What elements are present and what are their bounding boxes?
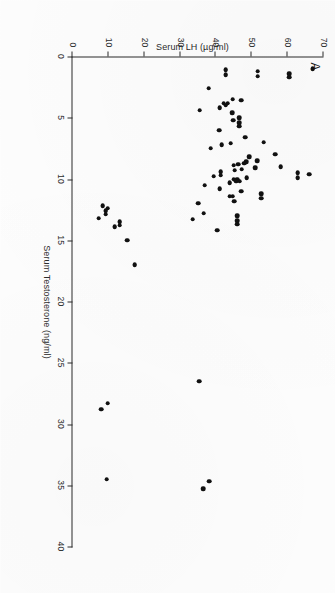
data-point	[310, 66, 314, 70]
rotated-figure-wrapper: A 0510152025303540010203040506070 Serum …	[0, 0, 335, 593]
data-point	[219, 142, 223, 146]
data-point	[229, 110, 233, 114]
x-tick	[67, 424, 72, 425]
data-point	[228, 141, 232, 145]
data-point	[231, 163, 235, 167]
data-point	[238, 189, 242, 193]
x-tick-label: 5	[55, 115, 65, 120]
data-point	[237, 115, 241, 119]
data-point	[242, 160, 246, 164]
x-tick	[67, 240, 72, 241]
y-tick	[143, 51, 144, 56]
data-point	[190, 217, 194, 221]
y-tick-label: 0	[67, 42, 77, 47]
data-point	[239, 166, 243, 170]
data-point	[232, 168, 236, 172]
y-tick	[322, 51, 323, 56]
data-point	[196, 378, 200, 382]
data-point	[255, 73, 259, 77]
data-point	[200, 486, 204, 490]
x-tick-label: 35	[55, 480, 65, 490]
data-point	[217, 105, 221, 109]
data-point	[286, 75, 290, 79]
scatter-figure: A 0510152025303540010203040506070 Serum …	[0, 0, 335, 593]
data-point	[295, 170, 299, 174]
x-tick	[67, 179, 72, 180]
y-tick	[71, 51, 72, 56]
data-point	[202, 182, 206, 186]
data-point	[201, 211, 205, 215]
data-point	[234, 213, 238, 217]
x-axis-title: Serum Testosterone (ng/ml)	[41, 56, 51, 547]
y-tick	[107, 51, 108, 56]
data-point	[206, 479, 210, 483]
data-point	[234, 222, 238, 226]
x-tick	[67, 301, 72, 302]
x-tick-label: 40	[55, 541, 65, 551]
data-point	[223, 67, 227, 71]
x-tick-label: 20	[55, 296, 65, 306]
y-tick-label: 70	[318, 37, 328, 47]
data-point	[124, 238, 128, 242]
data-point	[214, 228, 218, 232]
data-point	[232, 198, 236, 202]
x-tick	[67, 117, 72, 118]
y-tick	[286, 51, 287, 56]
data-point	[252, 165, 256, 169]
x-tick	[67, 485, 72, 486]
data-point	[230, 97, 234, 101]
data-point	[278, 164, 282, 168]
data-point	[258, 191, 262, 195]
data-point	[227, 193, 231, 197]
data-point	[227, 180, 231, 184]
data-point	[104, 476, 108, 480]
data-point	[211, 174, 215, 178]
x-tick	[67, 546, 72, 547]
x-tick	[67, 362, 72, 363]
data-point	[117, 223, 121, 227]
y-tick-label: 60	[282, 37, 292, 47]
data-point	[295, 175, 299, 179]
data-point	[217, 186, 221, 190]
data-point	[223, 72, 227, 76]
y-tick	[250, 51, 251, 56]
data-point	[247, 154, 251, 158]
data-point	[206, 86, 210, 90]
data-point	[105, 400, 109, 404]
data-point	[255, 68, 259, 72]
data-point	[96, 215, 100, 219]
data-point	[100, 203, 104, 207]
data-point	[258, 196, 262, 200]
data-point	[98, 407, 102, 411]
plot-area	[72, 56, 323, 546]
figure-page: A 0510152025303540010203040506070 Serum …	[0, 0, 335, 593]
x-tick-label: 15	[55, 235, 65, 245]
data-point	[243, 135, 247, 139]
x-tick-label: 0	[55, 54, 65, 59]
data-point	[261, 140, 265, 144]
data-point	[196, 201, 200, 205]
x-tick-label: 10	[55, 174, 65, 184]
data-point	[244, 175, 248, 179]
y-axis-title: Serum LH (µg/ml)	[102, 41, 282, 51]
data-point	[103, 212, 107, 216]
y-tick	[214, 51, 215, 56]
data-point	[306, 171, 310, 175]
data-point	[272, 152, 276, 156]
data-point	[208, 146, 212, 150]
x-tick-label: 30	[55, 419, 65, 429]
data-point	[112, 224, 116, 228]
data-point	[254, 158, 258, 162]
data-point	[237, 124, 241, 128]
x-tick-label: 25	[55, 357, 65, 367]
data-point	[197, 108, 201, 112]
data-point	[233, 179, 237, 183]
data-point	[218, 173, 222, 177]
data-point	[223, 103, 227, 107]
y-tick	[179, 51, 180, 56]
data-point	[216, 127, 220, 131]
data-point	[230, 117, 234, 121]
data-point	[132, 262, 136, 266]
data-point	[235, 162, 239, 166]
data-point	[238, 98, 242, 102]
